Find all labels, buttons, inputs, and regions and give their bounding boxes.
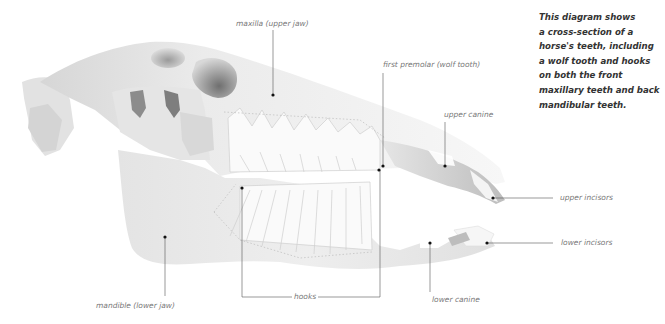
dot-upper-incisors bbox=[491, 196, 494, 199]
dot-first-premolar bbox=[381, 164, 384, 167]
dot-lower-canine bbox=[428, 241, 431, 244]
caption-line: This diagram shows bbox=[539, 10, 665, 25]
caption-line: a wolf tooth and hooks bbox=[539, 54, 665, 69]
dot-hook-upper bbox=[377, 168, 380, 171]
label-lower-canine: lower canine bbox=[432, 296, 480, 304]
dot-mandible bbox=[163, 235, 166, 238]
label-first-premolar: first premolar (wolf tooth) bbox=[383, 61, 480, 69]
dot-upper-canine bbox=[443, 164, 446, 167]
temporal-fossa bbox=[151, 48, 185, 68]
dot-hook-lower bbox=[240, 186, 243, 189]
label-mandible: mandible (lower jaw) bbox=[96, 302, 175, 310]
diagram-caption: This diagram shows a cross-section of a … bbox=[539, 10, 665, 112]
label-upper-incisors: upper incisors bbox=[560, 194, 613, 202]
dot-lower-incisors bbox=[485, 241, 488, 244]
caption-line: on both the front bbox=[539, 68, 665, 83]
label-maxilla: maxilla (upper jaw) bbox=[236, 20, 309, 28]
caption-line: a cross-section of a bbox=[539, 25, 665, 40]
caption-line: maxillary teeth and back bbox=[539, 83, 665, 98]
caption-line: mandibular teeth. bbox=[539, 98, 665, 113]
label-lower-incisors: lower incisors bbox=[561, 239, 612, 247]
label-upper-canine: upper canine bbox=[444, 111, 493, 119]
label-hooks: hooks bbox=[294, 293, 316, 301]
caption-line: horse's teeth, including bbox=[539, 39, 665, 54]
dot-maxilla bbox=[271, 93, 274, 96]
